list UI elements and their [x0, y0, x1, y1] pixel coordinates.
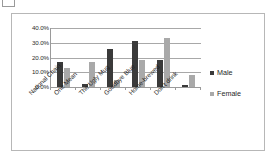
cropped-corner-artifact — [2, 0, 15, 7]
chart-container: 0.0%10.0%20.0%30.0%40.0% National ChainO… — [11, 13, 265, 151]
legend-label: Female — [217, 90, 241, 97]
y-axis-tick-label: 20.0% — [32, 55, 49, 61]
chart-plot-wrapper: 0.0%10.0%20.0%30.0%40.0% National ChainO… — [12, 14, 264, 150]
bar-female[interactable] — [189, 75, 195, 87]
legend-item-female[interactable]: Female — [210, 90, 264, 97]
y-axis-tick-label: 40.0% — [32, 25, 49, 31]
x-axis-category-labels: National ChainOne MeanThe Ugly MugGoodby… — [12, 90, 212, 148]
legend-swatch-icon — [210, 71, 214, 75]
legend-swatch-icon — [210, 92, 214, 96]
bar-group — [176, 28, 201, 87]
legend-item-male[interactable]: Male — [210, 69, 264, 76]
y-axis-tick-label: 30.0% — [32, 40, 49, 46]
legend-label: Male — [217, 69, 233, 76]
chart-legend: MaleFemale — [210, 69, 264, 111]
